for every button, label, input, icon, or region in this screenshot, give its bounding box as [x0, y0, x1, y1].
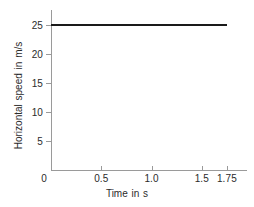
x-axis-title: Time in s	[0, 188, 254, 199]
y-axis-title: Horizontal speed in m/s	[13, 26, 24, 166]
y-axis-tick	[46, 112, 51, 113]
chart-container: 51015202500.51.01.51.75 Time in s Horizo…	[0, 0, 254, 207]
x-axis-tick-label: 1.75	[207, 173, 247, 184]
x-axis-tick	[152, 166, 153, 171]
x-axis-tick	[227, 166, 228, 171]
x-axis-tick-label: 0.5	[81, 173, 121, 184]
x-axis-tick-label: 1.0	[132, 173, 172, 184]
y-axis-line	[51, 10, 52, 171]
x-axis-line	[51, 170, 247, 171]
y-axis-tick	[46, 141, 51, 142]
y-axis-tick	[46, 54, 51, 55]
x-axis-tick	[202, 166, 203, 171]
x-axis-tick-label: 0	[24, 173, 64, 184]
y-axis-tick	[46, 83, 51, 84]
x-axis-tick	[101, 166, 102, 171]
data-series-line	[51, 24, 227, 26]
